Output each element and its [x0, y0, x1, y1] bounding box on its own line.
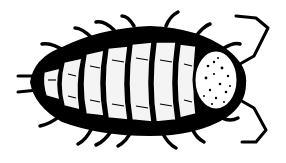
- head: [194, 50, 238, 110]
- isopod-illustration: [0, 0, 286, 163]
